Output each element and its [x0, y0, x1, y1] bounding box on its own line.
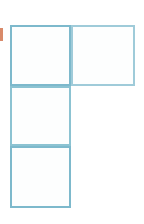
grid-cell-row3-col1[interactable] [10, 146, 71, 208]
grid-cell-row2-col1[interactable] [10, 86, 71, 146]
grid-cell-row1-col1[interactable] [10, 25, 71, 86]
grid-cell-row1-col2[interactable] [71, 25, 135, 86]
left-edge-accent-marker [0, 28, 3, 41]
polyomino-figure-canvas [0, 0, 144, 224]
